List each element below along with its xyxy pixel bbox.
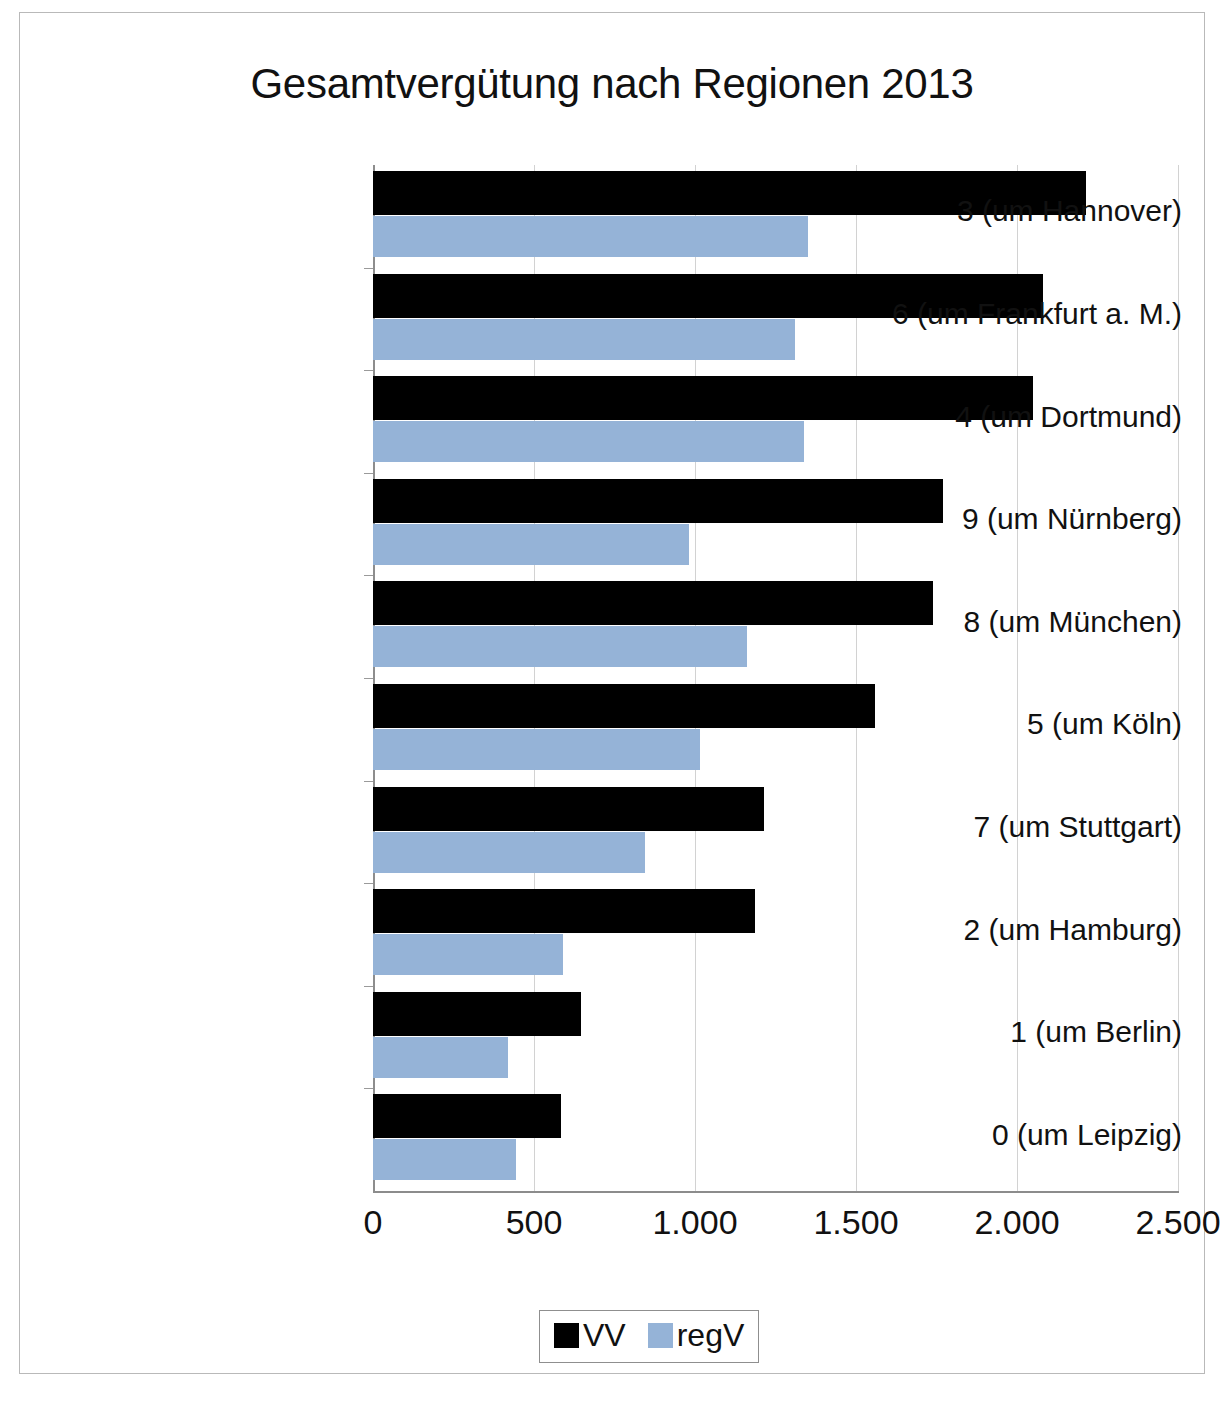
legend-swatch-icon xyxy=(554,1323,579,1348)
category-label: 4 (um Dortmund) xyxy=(864,400,1204,434)
y-axis-tick xyxy=(364,575,373,576)
bar-vv xyxy=(373,684,875,728)
y-axis-tick xyxy=(364,370,373,371)
bar-regv xyxy=(373,319,795,360)
category-label: 6 (um Frankfurt a. M.) xyxy=(864,297,1204,331)
bar-vv xyxy=(373,479,943,523)
bar-regv xyxy=(373,729,700,770)
x-axis-line xyxy=(373,1191,1179,1193)
legend-label: VV xyxy=(583,1317,626,1354)
category-label: 2 (um Hamburg) xyxy=(864,913,1204,947)
bar-regv xyxy=(373,832,645,873)
bar-regv xyxy=(373,934,563,975)
x-tick-label: 500 xyxy=(506,1203,563,1242)
bar-regv xyxy=(373,626,747,667)
chart-page: Gesamtvergütung nach Regionen 2013 3 (um… xyxy=(0,0,1225,1411)
bar-vv xyxy=(373,581,933,625)
y-axis-tick xyxy=(364,781,373,782)
y-axis-tick xyxy=(364,678,373,679)
x-tick-label: 0 xyxy=(364,1203,383,1242)
bar-regv xyxy=(373,1037,508,1078)
bar-regv xyxy=(373,524,689,565)
legend-label: regV xyxy=(677,1317,745,1354)
bar-regv xyxy=(373,216,808,257)
bar-regv xyxy=(373,421,804,462)
chart-frame: Gesamtvergütung nach Regionen 2013 3 (um… xyxy=(19,12,1205,1374)
bar-vv xyxy=(373,1094,561,1138)
category-label: 9 (um Nürnberg) xyxy=(864,502,1204,536)
category-label: 3 (um Hannover) xyxy=(864,194,1204,228)
category-label: 8 (um München) xyxy=(864,605,1204,639)
category-label: 7 (um Stuttgart) xyxy=(864,810,1204,844)
category-label: 1 (um Berlin) xyxy=(864,1015,1204,1049)
bar-regv xyxy=(373,1139,516,1180)
y-axis-tick xyxy=(364,473,373,474)
chart-title: Gesamtvergütung nach Regionen 2013 xyxy=(20,60,1204,108)
category-label: 0 (um Leipzig) xyxy=(864,1118,1204,1152)
bar-vv xyxy=(373,992,581,1036)
y-axis-tick xyxy=(364,986,373,987)
x-tick-label: 1.500 xyxy=(813,1203,898,1242)
category-label: 5 (um Köln) xyxy=(864,707,1204,741)
x-tick-label: 2.000 xyxy=(974,1203,1059,1242)
y-axis-tick xyxy=(364,1088,373,1089)
y-axis-tick xyxy=(364,268,373,269)
bar-vv xyxy=(373,889,755,933)
chart-legend: VVregV xyxy=(539,1310,759,1363)
y-axis-tick xyxy=(364,883,373,884)
bar-vv xyxy=(373,787,764,831)
legend-swatch-icon xyxy=(648,1323,673,1348)
legend-entry: regV xyxy=(648,1317,745,1354)
x-tick-label: 1.000 xyxy=(652,1203,737,1242)
legend-entry: VV xyxy=(554,1317,626,1354)
x-tick-label: 2.500 xyxy=(1135,1203,1220,1242)
